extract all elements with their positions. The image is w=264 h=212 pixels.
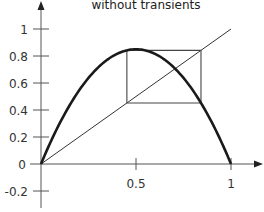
x-ticks: 0.51 [126,158,234,191]
logistic-curve [41,49,231,164]
y-tick-label: 0.8 [9,50,28,64]
y-tick-label: 0.4 [9,104,28,118]
y-ticks: 10.80.60.40.20-0.2 [5,23,49,199]
x-axis [30,161,263,168]
cobweb-chart: without transients 10.80.60.40.20-0.2 0.… [0,0,264,212]
y-tick-label: -0.2 [5,185,28,199]
x-tick-label: 1 [227,177,235,191]
y-tick-label: 1 [20,23,28,37]
y-tick-label: 0.6 [9,77,28,91]
x-axis-arrow-icon [254,161,263,168]
x-tick-label: 0.5 [126,177,145,191]
y-axis [38,1,45,208]
y-tick-label: 0 [18,158,26,172]
chart-title: without transients [91,0,200,12]
y-axis-arrow-icon [38,1,45,10]
y-tick-label: 0.2 [9,131,28,145]
